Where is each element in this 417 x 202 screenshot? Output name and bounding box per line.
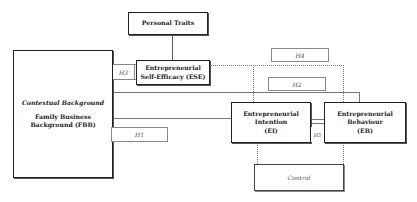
hypothesis-h4: H4 [271, 48, 329, 62]
fbb-line1: Family Business [35, 113, 91, 122]
edge-h2 [113, 92, 360, 93]
ese-line1: Entrepreneurial [145, 64, 201, 73]
fbb-line2: Background (FBB) [30, 121, 95, 130]
node-contextual-background: Contextual Background Family Business Ba… [13, 50, 113, 178]
edge-h1 [113, 118, 231, 119]
edge-h4-to-ei [253, 65, 254, 102]
ei-line1: Entrepreneurial [243, 110, 299, 119]
eb-line1: Entrepreneurial [337, 110, 393, 119]
ei-line3: (EI) [264, 127, 277, 136]
eb-line3: (EB) [357, 127, 373, 136]
edge-h5-mid [311, 123, 324, 124]
hypothesis-h5: H5 [311, 127, 324, 142]
edge-control-ei [257, 142, 258, 164]
contextual-background-title: Contextual Background [22, 99, 104, 106]
hypothesis-h2: H2 [268, 77, 326, 91]
ei-line2: Intention [255, 118, 288, 127]
node-control: Control [254, 164, 344, 191]
edge-h4-horizontal [210, 65, 344, 66]
edge-h4-to-eb [343, 65, 344, 102]
edge-h2-drop [359, 92, 360, 102]
node-personal-traits: Personal Traits [128, 12, 208, 35]
eb-line2: Behaviour [347, 118, 383, 127]
hypothesis-h1: H1 [111, 127, 168, 142]
h2-label: H2 [292, 81, 301, 88]
node-eb: Entrepreneurial Behaviour (EB) [324, 102, 406, 143]
control-label: Control [288, 174, 311, 181]
h4-label: H4 [295, 52, 304, 59]
edge-control-eb [343, 142, 344, 164]
node-ei: Entrepreneurial Intention (EI) [231, 102, 311, 143]
node-ese: Entrepreneurial Self-Efficacy (ESE) [136, 60, 210, 85]
h5-label: H5 [314, 132, 322, 138]
personal-traits-label: Personal Traits [142, 19, 194, 28]
h3-label: H3 [119, 69, 128, 76]
edge-h5-top [311, 119, 324, 120]
edge-traits-ese [172, 35, 173, 60]
h1-label: H1 [135, 131, 144, 138]
hypothesis-h3: H3 [113, 64, 135, 80]
ese-line2: Self-Efficacy (ESE) [141, 73, 206, 82]
